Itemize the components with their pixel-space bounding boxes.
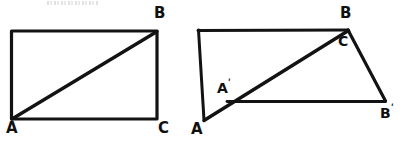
right-panel-quadrilateral [198,30,386,121]
quad-top-edge [198,30,348,31]
quad-diagonal-A-to-B [204,31,349,121]
label-left-C: C [158,121,169,136]
label-right-B-prime: Bʹ [380,103,394,120]
prime-mark-icon: ʹ [348,30,351,43]
label-right-A-prime: Aʹ [217,78,231,95]
label-left-A: A [6,121,18,136]
left-panel-rectangle [12,31,158,119]
quad-left-edge [199,30,205,120]
label-right-B: B [340,6,351,21]
prime-mark-icon: ʹ [391,102,394,115]
label-right-A: A [191,122,203,137]
label-right-C-prime: Cʹ [338,31,352,48]
quad-right-edge-B-to-Bprime [348,30,386,101]
prime-mark-icon: ʹ [228,77,231,90]
rectangle-diagonal-A-B [12,32,157,120]
label-right-B-prime-letter: B [380,105,391,121]
label-left-B: B [154,6,165,21]
label-right-A-prime-letter: A [217,80,228,96]
label-right-C-prime-letter: C [338,33,348,49]
geometry-figure-canvas: B A C B Cʹ Aʹ A Bʹ [0,0,407,142]
